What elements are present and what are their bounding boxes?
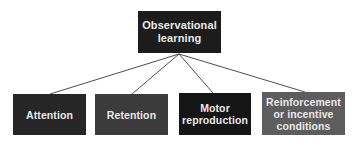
node-retention: Retention — [95, 94, 168, 135]
link-retention — [132, 54, 179, 94]
node-label: Motor — [182, 102, 248, 114]
node-observational-learning: Observational learning — [138, 11, 221, 53]
node-label: reproduction — [182, 114, 248, 126]
link-attention — [50, 54, 179, 94]
link-reinforcement — [179, 54, 305, 92]
node-label: conditions — [266, 120, 341, 132]
node-motor-reproduction: Motor reproduction — [179, 93, 251, 135]
node-label: Observational — [142, 19, 217, 32]
node-attention: Attention — [13, 94, 86, 135]
node-label: learning — [142, 32, 217, 45]
node-label: or incentive — [266, 108, 341, 120]
link-motor-reproduction — [179, 54, 213, 93]
node-reinforcement: Reinforcement or incentive conditions — [262, 92, 345, 135]
node-label: Reinforcement — [266, 96, 341, 108]
node-label: Attention — [26, 109, 73, 121]
node-label: Retention — [107, 109, 156, 121]
